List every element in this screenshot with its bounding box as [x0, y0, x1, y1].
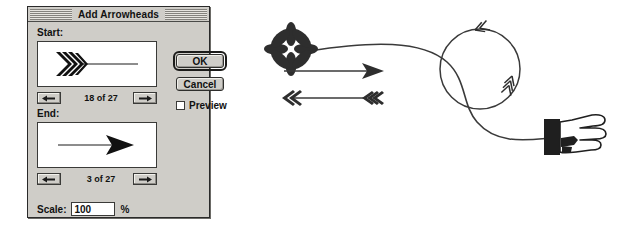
arrowhead-illustration	[262, 0, 617, 233]
start-prev-button[interactable]	[37, 92, 61, 104]
end-next-button[interactable]	[133, 173, 157, 185]
dialog-body: Start: 18 of 27 End:	[28, 22, 209, 217]
feather-chevron-arrowhead-top	[473, 21, 490, 35]
right-arrow-icon	[138, 95, 152, 102]
end-prev-button[interactable]	[37, 173, 61, 185]
start-label: Start:	[37, 27, 63, 38]
scale-row: Scale: %	[37, 202, 129, 216]
flower-8-petal-arrowhead	[264, 22, 318, 76]
dialog-titlebar[interactable]: Add Arrowheads	[28, 7, 209, 22]
left-arrow-icon	[42, 176, 56, 183]
end-counter: 3 of 27	[66, 174, 136, 184]
ok-button[interactable]: OK	[176, 54, 224, 68]
cancel-button[interactable]: Cancel	[176, 77, 224, 91]
feather-chevron-arrowhead-right	[501, 74, 516, 95]
feathered-chevron-arrowhead	[38, 42, 156, 86]
scale-input[interactable]	[71, 202, 115, 216]
dialog-title: Add Arrowheads	[28, 8, 209, 21]
preview-label: Preview	[189, 100, 227, 111]
add-arrowheads-dialog: Add Arrowheads Start: 18 of 27	[27, 6, 210, 218]
end-label: End:	[37, 108, 59, 119]
preview-checkbox[interactable]	[176, 101, 185, 110]
solid-triangle-arrowhead	[38, 123, 156, 167]
right-arrow-icon	[138, 176, 152, 183]
dialog-title-text: Add Arrowheads	[72, 9, 165, 20]
left-arrow-icon	[42, 95, 56, 102]
start-next-button[interactable]	[133, 92, 157, 104]
scale-percent-symbol: %	[120, 204, 129, 215]
preview-checkbox-row[interactable]: Preview	[176, 100, 227, 111]
chevron-arrow	[282, 90, 384, 106]
flower-arrowhead-curve	[264, 22, 606, 155]
triple-chevron-left-tail	[362, 91, 384, 105]
end-preview-box[interactable]	[37, 122, 157, 168]
circle-loop	[440, 21, 520, 109]
pointing-hand-arrowhead	[544, 115, 606, 155]
start-counter: 18 of 27	[66, 93, 136, 103]
scale-label: Scale:	[37, 204, 66, 215]
start-preview-box[interactable]	[37, 41, 157, 87]
